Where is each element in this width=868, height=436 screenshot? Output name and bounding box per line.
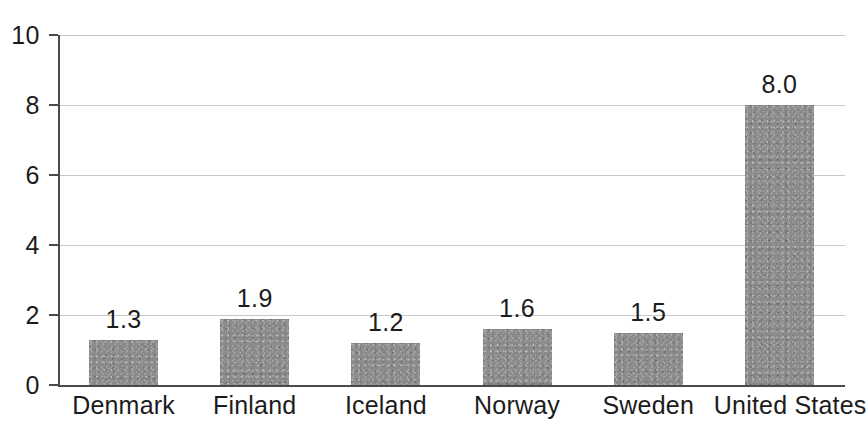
- bar-group: 1.6: [483, 35, 552, 385]
- y-axis-tick-label: 2: [0, 303, 40, 328]
- y-tick-mark-10: [49, 34, 58, 36]
- category-labels: DenmarkFinlandIcelandNorwaySwedenUnited …: [58, 391, 845, 431]
- bar: [89, 340, 158, 386]
- y-tick-mark-8: [49, 104, 58, 106]
- x-axis-category-label: United States: [714, 391, 845, 420]
- y-axis-tick-label: 10: [0, 23, 40, 48]
- y-tick-mark-4: [49, 244, 58, 246]
- bar-group: 1.2: [351, 35, 420, 385]
- x-axis-category-label: Norway: [452, 391, 583, 420]
- bar: [220, 319, 289, 386]
- bar-group: 1.3: [89, 35, 158, 385]
- y-axis-tick-label: 6: [0, 163, 40, 188]
- bar-group: 1.9: [220, 35, 289, 385]
- bar: [614, 333, 683, 386]
- x-axis-category-label: Finland: [189, 391, 320, 420]
- bar-group: 8.0: [745, 35, 814, 385]
- x-axis-category-label: Iceland: [320, 391, 451, 420]
- bar: [351, 343, 420, 385]
- bar-value-label: 1.2: [321, 310, 450, 335]
- y-tick-mark-2: [49, 314, 58, 316]
- y-axis-tick-label: 0: [0, 373, 40, 398]
- bar-chart: 0246810 1.31.91.21.61.58.0 DenmarkFinlan…: [0, 0, 868, 436]
- y-tick-mark-6: [49, 174, 58, 176]
- y-tick-mark-0: [49, 384, 58, 386]
- bar-group: 1.5: [614, 35, 683, 385]
- x-axis-category-label: Sweden: [583, 391, 714, 420]
- bar-value-label: 1.6: [453, 296, 582, 321]
- bar-value-label: 1.9: [190, 286, 319, 311]
- bar-value-label: 1.5: [584, 300, 713, 325]
- bar-value-label: 8.0: [715, 72, 844, 97]
- x-axis-line: [58, 385, 845, 387]
- bar: [745, 105, 814, 385]
- bar: [483, 329, 552, 385]
- y-axis-tick-label: 8: [0, 93, 40, 118]
- y-axis-tick-label: 4: [0, 233, 40, 258]
- bars-layer: 1.31.91.21.61.58.0: [58, 35, 845, 385]
- x-axis-category-label: Denmark: [58, 391, 189, 420]
- bar-value-label: 1.3: [59, 307, 188, 332]
